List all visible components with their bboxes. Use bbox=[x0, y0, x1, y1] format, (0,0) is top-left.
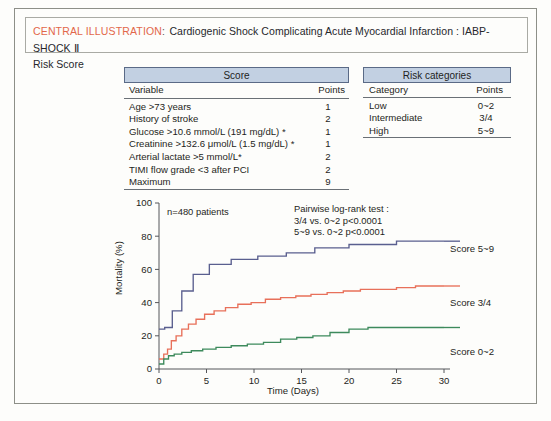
score-table-header: Score bbox=[124, 67, 349, 83]
score-table-body: Variable Points Age >73 years 1 History … bbox=[124, 83, 349, 190]
logrank-title: Pairwise log-rank test : bbox=[294, 203, 389, 214]
score-points: 9 bbox=[311, 176, 345, 189]
score-variable: TIMI flow grade <3 after PCI bbox=[129, 164, 249, 177]
score-points: 1 bbox=[311, 138, 345, 151]
y-axis-label: Mortality (%) bbox=[113, 241, 124, 295]
x-axis-tick: 30 bbox=[439, 375, 450, 386]
y-axis-tick: 100 bbox=[136, 199, 152, 208]
risk-col-points: Points bbox=[469, 84, 503, 97]
x-axis-label: Time (Days) bbox=[267, 385, 319, 396]
risk-table-header: Risk categories bbox=[363, 67, 511, 83]
table-row: Creatinine >132.6 μmol/L (1.5 mg/dL) * 1 bbox=[124, 138, 349, 151]
y-axis-tick: 20 bbox=[141, 330, 152, 341]
risk-categories-table: Risk categories Category Points Low 0~2 … bbox=[363, 67, 511, 138]
y-axis-tick: 80 bbox=[141, 231, 152, 242]
x-axis-tick: 10 bbox=[249, 375, 260, 386]
series-line-low bbox=[159, 328, 444, 365]
score-points: 2 bbox=[311, 151, 345, 164]
table-row: Maximum 9 bbox=[124, 176, 349, 189]
score-variable: History of stroke bbox=[129, 113, 198, 126]
figure-title-box: CENTRAL ILLUSTRATION: Cardiogenic Shock … bbox=[25, 17, 528, 53]
risk-category: High bbox=[369, 125, 389, 138]
score-variable: Age >73 years bbox=[129, 101, 191, 114]
table-row: Arterial lactate >5 mmol/L* 2 bbox=[124, 151, 349, 164]
score-points: 2 bbox=[311, 113, 345, 126]
table-row: Glucose >10.6 mmol/L (191 mg/dL) * 1 bbox=[124, 126, 349, 139]
table-row: Low 0~2 bbox=[363, 100, 511, 113]
score-variable: Arterial lactate >5 mmol/L* bbox=[129, 151, 242, 164]
score-points: 2 bbox=[311, 164, 345, 177]
kaplan-meier-chart: n=480 patients Pairwise log-rank test :3… bbox=[119, 199, 529, 404]
figure-outer-frame: CENTRAL ILLUSTRATION: Cardiogenic Shock … bbox=[14, 8, 537, 404]
risk-points: 5~9 bbox=[469, 125, 503, 138]
score-variable: Glucose >10.6 mmol/L (191 mg/dL) * bbox=[129, 126, 286, 139]
logrank-line2: 5~9 vs. 0~2 p<0.0001 bbox=[294, 226, 385, 237]
series-label-high: Score 5~9 bbox=[450, 243, 494, 254]
table-row: Intermediate 3/4 bbox=[363, 112, 511, 125]
y-axis-tick: 60 bbox=[141, 264, 152, 275]
score-table: Score Variable Points Age >73 years 1 Hi… bbox=[124, 67, 349, 190]
series-label-mid: Score 3/4 bbox=[450, 297, 491, 308]
score-col-points: Points bbox=[311, 84, 345, 97]
chart-annotation-n: n=480 patients bbox=[167, 206, 229, 218]
series-label-low: Score 0~2 bbox=[450, 346, 494, 357]
x-axis-tick: 25 bbox=[391, 375, 402, 386]
title-separator: : bbox=[162, 25, 165, 37]
x-axis-tick: 0 bbox=[156, 375, 161, 386]
risk-col-category: Category bbox=[369, 84, 408, 97]
score-points: 1 bbox=[311, 126, 345, 139]
score-table-column-headers: Variable Points bbox=[124, 84, 349, 99]
x-axis-tick: 20 bbox=[344, 375, 355, 386]
y-axis-tick: 0 bbox=[147, 363, 152, 374]
chart-annotation-logrank: Pairwise log-rank test :3/4 vs. 0~2 p<0.… bbox=[294, 203, 389, 238]
table-row: High 5~9 bbox=[363, 125, 511, 138]
table-row: TIMI flow grade <3 after PCI 2 bbox=[124, 164, 349, 177]
series-line-mid bbox=[159, 286, 444, 359]
score-variable: Creatinine >132.6 μmol/L (1.5 mg/dL) * bbox=[129, 138, 294, 151]
score-points: 1 bbox=[311, 101, 345, 114]
x-axis-tick: 5 bbox=[204, 375, 209, 386]
table-row: History of stroke 2 bbox=[124, 113, 349, 126]
series-line-high bbox=[159, 241, 444, 329]
table-row: Age >73 years 1 bbox=[124, 101, 349, 114]
score-variable: Maximum bbox=[129, 176, 171, 189]
y-axis-tick: 40 bbox=[141, 297, 152, 308]
risk-category: Low bbox=[369, 100, 387, 113]
logrank-line1: 3/4 vs. 0~2 p<0.0001 bbox=[294, 215, 382, 226]
risk-category: Intermediate bbox=[369, 112, 422, 125]
score-col-variable: Variable bbox=[129, 84, 164, 97]
risk-points: 3/4 bbox=[469, 112, 503, 125]
risk-table-column-headers: Category Points bbox=[363, 84, 511, 98]
central-illustration-figure: CENTRAL ILLUSTRATION: Cardiogenic Shock … bbox=[0, 0, 551, 421]
risk-points: 0~2 bbox=[469, 100, 503, 113]
risk-table-body: Category Points Low 0~2 Intermediate 3/4… bbox=[363, 83, 511, 138]
title-accent-label: CENTRAL ILLUSTRATION bbox=[33, 25, 162, 37]
